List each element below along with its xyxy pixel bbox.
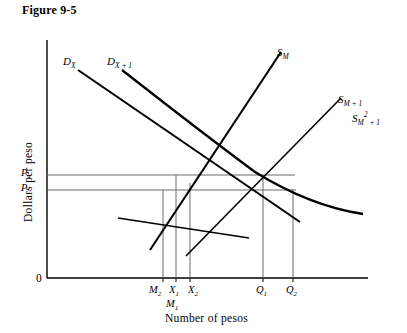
demand-curve-dx-plus-1 xyxy=(122,70,363,214)
curve-label-dx-base: D xyxy=(63,55,71,67)
quantity-tick-x2-sub: 2 xyxy=(194,290,198,298)
curve-label-sm: SM xyxy=(277,46,289,61)
curve-label-sm2-plus-1-sub: M xyxy=(358,118,364,127)
curve-label-sm2-plus-1-subtail: + 1 xyxy=(368,118,381,127)
quantity-tick-q2-sub: 2 xyxy=(294,290,298,298)
quantity-tick-m1-sub: 1 xyxy=(175,304,179,312)
curve-label-dx-plus-1-base: D xyxy=(107,55,115,67)
quantity-tick-q1: Q1 xyxy=(256,284,267,298)
origin-label: 0 xyxy=(36,272,42,284)
quantity-tick-q2-base: Q xyxy=(286,284,294,295)
quantity-tick-m2: M2 xyxy=(149,284,161,298)
price-tick-p2-sub: 2 xyxy=(27,188,31,196)
x-axis-title: Number of pesos xyxy=(165,312,248,324)
quantity-tick-m1-base: M xyxy=(166,298,175,309)
quantity-tick-m1: M1 xyxy=(166,298,178,312)
curve-label-dx-plus-1: DX + 1 xyxy=(107,55,132,70)
curve-label-dx-plus-1-sub: X + 1 xyxy=(115,61,132,70)
quantity-tick-x2: X2 xyxy=(188,284,198,298)
quantity-tick-q1-sub: 1 xyxy=(264,290,268,298)
price-tick-p1-sub: 1 xyxy=(27,173,31,181)
curve-label-sm-plus-1-sub: M + 1 xyxy=(344,99,363,108)
curve-label-sm-sub: M xyxy=(283,52,289,61)
supply-curve-sm xyxy=(150,52,281,250)
demand-curve-dx xyxy=(78,70,300,222)
diagram-canvas xyxy=(0,0,407,333)
quantity-tick-m2-sub: 2 xyxy=(158,290,162,298)
supply-curve-sm2-plus-1 xyxy=(118,218,249,238)
quantity-tick-x1-sub: 1 xyxy=(175,290,179,298)
curve-label-sm-plus-1: SM + 1 xyxy=(338,93,362,108)
figure-container: Figure 9-5 Dollars per peso xyxy=(0,0,407,333)
quantity-tick-q1-base: Q xyxy=(256,284,264,295)
curve-label-sm2-plus-1: SM2 + 1 xyxy=(352,110,380,127)
quantity-tick-q2: Q2 xyxy=(286,284,297,298)
quantity-tick-x1: X1 xyxy=(169,284,179,298)
price-tick-p1: P1 xyxy=(21,167,31,181)
curve-label-dx: DX xyxy=(63,55,76,70)
curve-label-dx-sub: X xyxy=(71,61,76,70)
price-tick-p2: P2 xyxy=(21,182,31,196)
quantity-tick-m2-base: M xyxy=(149,284,158,295)
